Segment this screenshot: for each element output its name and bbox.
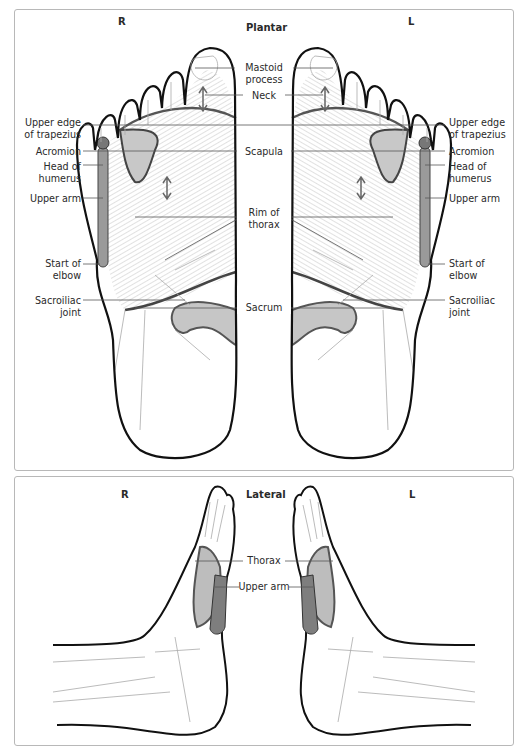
plantar-panel: R Plantar L Upper edgeof trapezius Acrom… bbox=[14, 9, 514, 471]
label-head-of-humerus-r: Head ofhumerus bbox=[39, 161, 81, 184]
lateral-side-l: L bbox=[409, 489, 415, 501]
label-rim-of-thorax: Rim ofthorax bbox=[237, 207, 291, 230]
label-sacroiliac-joint-r: Sacroiliacjoint bbox=[35, 295, 81, 318]
label-upper-arm-r: Upper arm bbox=[30, 193, 81, 205]
lateral-side-r: R bbox=[121, 489, 129, 501]
label-sacrum: Sacrum bbox=[237, 302, 291, 314]
lateral-illustration bbox=[15, 477, 513, 745]
label-acromion-l: Acromion bbox=[449, 146, 494, 158]
label-upper-arm-l: Upper arm bbox=[449, 193, 500, 205]
plantar-side-r: R bbox=[118, 16, 126, 28]
label-upper-arm-lateral: Upper arm bbox=[237, 581, 291, 593]
label-mastoid-process: Mastoidprocess bbox=[237, 62, 291, 85]
label-scapula: Scapula bbox=[237, 146, 291, 158]
label-start-of-elbow-r: Start ofelbow bbox=[45, 258, 81, 281]
label-neck: Neck bbox=[237, 90, 291, 102]
label-upper-edge-trapezius-r: Upper edgeof trapezius bbox=[24, 117, 81, 140]
label-upper-edge-trapezius-l: Upper edgeof trapezius bbox=[449, 117, 506, 140]
label-head-of-humerus-l: Head ofhumerus bbox=[449, 161, 491, 184]
label-start-of-elbow-l: Start ofelbow bbox=[449, 258, 485, 281]
right-foot-plantar bbox=[77, 48, 236, 458]
lateral-title: Lateral bbox=[246, 489, 286, 501]
label-thorax: Thorax bbox=[241, 555, 287, 567]
plantar-title: Plantar bbox=[246, 22, 287, 34]
left-foot-lateral bbox=[293, 486, 475, 734]
right-foot-lateral bbox=[53, 486, 235, 734]
lateral-panel: R Lateral L Thorax Upper arm bbox=[14, 476, 514, 746]
label-sacroiliac-joint-l: Sacroiliacjoint bbox=[449, 295, 495, 318]
plantar-side-l: L bbox=[408, 16, 414, 28]
label-acromion-r: Acromion bbox=[36, 146, 81, 158]
left-foot-plantar bbox=[292, 48, 451, 458]
